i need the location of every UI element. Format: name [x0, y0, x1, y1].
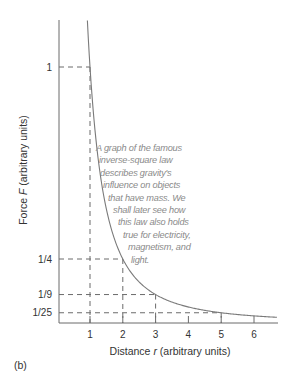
annotation-line: inverse-square law [96, 154, 216, 166]
x-tick-label: 5 [218, 329, 224, 340]
chart-annotation: A graph of the famousinverse-square lawd… [96, 142, 216, 266]
annotation-line: true for electricity, [96, 229, 216, 241]
annotation-line: magnetism, and [96, 241, 216, 253]
annotation-line: A graph of the famous [96, 142, 216, 154]
x-tick-label: 1 [87, 329, 93, 340]
panel-label: (b) [14, 359, 27, 371]
annotation-line: light. [96, 254, 216, 266]
annotation-line: shall later see how [96, 204, 216, 216]
y-tick-label: 1/9 [38, 289, 52, 300]
annotation-line: that have mass. We [96, 192, 216, 204]
y-tick-label: 1/4 [38, 254, 52, 265]
y-tick-label: 1 [46, 62, 52, 73]
annotation-line: describes gravity's [96, 167, 216, 179]
x-axis-ticks: 123456 [87, 316, 257, 340]
x-tick-label: 4 [186, 329, 192, 340]
x-axis-label: Distance r (arbitrary units) [110, 345, 231, 357]
x-tick-label: 6 [251, 329, 257, 340]
annotation-line: this law also holds [96, 216, 216, 228]
y-tick-label: 1/25 [33, 307, 53, 318]
x-tick-label: 2 [120, 329, 126, 340]
y-axis-label: Force F (arbitrary units) [17, 115, 29, 225]
annotation-line: influence on objects [96, 179, 216, 191]
x-tick-label: 3 [153, 329, 159, 340]
y-axis-ticks: 11/41/91/25 [33, 62, 53, 319]
